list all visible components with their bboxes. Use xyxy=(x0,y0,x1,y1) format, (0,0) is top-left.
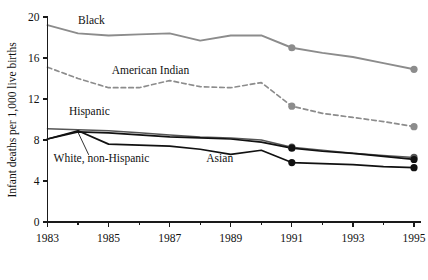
x-tick-label-1993: 1993 xyxy=(341,232,364,244)
x-tick-label-1983: 1983 xyxy=(36,232,59,244)
marker-american-indian-1991 xyxy=(288,103,295,110)
x-tick-label-1995: 1995 xyxy=(403,232,426,244)
y-tick-label-0: 0 xyxy=(34,216,40,228)
y-tick-label-4: 4 xyxy=(34,175,40,187)
x-tick-label-1991: 1991 xyxy=(280,232,303,244)
marker-black-1995 xyxy=(410,66,417,73)
series-label-asian: Asian xyxy=(206,152,233,164)
marker-white-non-hispanic-1991 xyxy=(288,145,295,152)
y-tick-label-16: 16 xyxy=(28,52,40,64)
x-tick-label-1987: 1987 xyxy=(158,232,181,244)
x-tick-label-1989: 1989 xyxy=(219,232,242,244)
series-label-hispanic: Hispanic xyxy=(69,105,110,118)
chart-canvas: 0481216201983198519871989199119931995 Bl… xyxy=(0,0,428,280)
x-tick-label-1985: 1985 xyxy=(97,232,120,244)
marker-american-indian-1995 xyxy=(410,123,417,130)
y-tick-label-8: 8 xyxy=(34,134,40,146)
series-label-black: Black xyxy=(78,14,105,26)
y-tick-label-20: 20 xyxy=(28,11,40,23)
series-label-white-non-hispanic: White, non-Hispanic xyxy=(54,152,150,165)
y-tick-label-12: 12 xyxy=(28,93,40,105)
y-axis-title: Infant deaths per 1,000 live births xyxy=(6,42,19,198)
marker-asian-1995 xyxy=(410,164,417,171)
marker-white-non-hispanic-1995 xyxy=(410,156,417,163)
series-label-american-indian: American Indian xyxy=(112,64,190,76)
infant-mortality-line-chart: 0481216201983198519871989199119931995 Bl… xyxy=(0,0,428,280)
marker-asian-1991 xyxy=(288,159,295,166)
marker-black-1991 xyxy=(288,44,295,51)
